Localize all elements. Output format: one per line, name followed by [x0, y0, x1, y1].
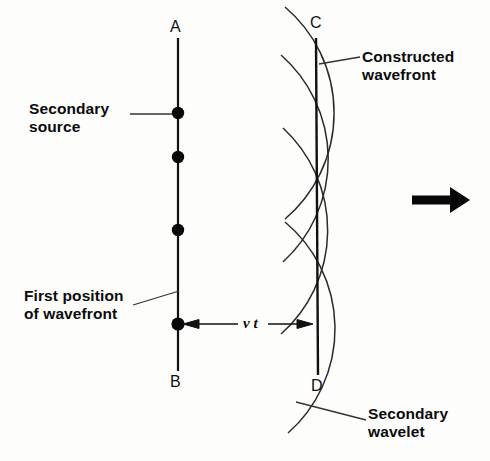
- vt-left-arrowhead: [183, 320, 199, 329]
- label-constructed-wavefront: Constructed wavefront: [362, 48, 454, 85]
- leader-line-constructed-wavefront: [319, 57, 360, 64]
- label-secondary-wavelet: Secondary wavelet: [368, 405, 448, 442]
- secondary-source-dot-2: [172, 151, 184, 163]
- point-label-d: D: [311, 377, 323, 395]
- secondary-source-dot-1: [172, 107, 184, 119]
- label-vt-distance: v t: [243, 315, 258, 332]
- leader-line-secondary-wavelet: [296, 402, 366, 420]
- point-label-b: B: [170, 373, 181, 391]
- label-first-position-of-wavefront: First position of wavefront: [24, 287, 124, 324]
- point-label-a: A: [170, 18, 181, 36]
- leader-line-first-position: [133, 291, 179, 305]
- secondary-wavelet-arc-1: [285, 7, 334, 219]
- vt-right-arrowhead: [297, 320, 313, 329]
- figure-canvas: Secondary source First position of wavef…: [0, 0, 490, 461]
- secondary-wavelet-arc-4: [285, 222, 335, 433]
- label-secondary-source: Secondary source: [29, 100, 109, 137]
- propagation-direction-arrow: [412, 187, 470, 213]
- secondary-wavelet-arc-3: [281, 128, 328, 334]
- propagation-arrow-head: [450, 187, 470, 213]
- constructed-wavefront-line: [316, 38, 318, 375]
- propagation-arrow-shaft: [412, 196, 452, 205]
- secondary-wavelet-arcs: [281, 7, 335, 433]
- point-label-c: C: [310, 14, 322, 32]
- secondary-source-dot-3: [172, 224, 184, 236]
- secondary-wavelet-arc-2: [281, 55, 328, 262]
